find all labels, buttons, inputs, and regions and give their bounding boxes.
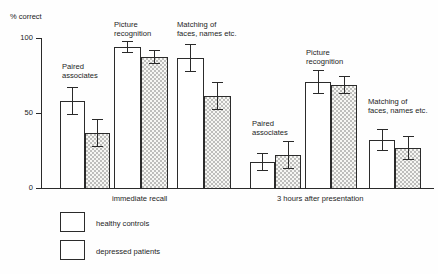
group-label-2-line2: recognition [114,29,151,38]
errorbar-cap-top-patients-5 [339,76,350,77]
errorbar-cap-top-controls-4 [257,153,268,154]
group-label-3-line1: Matching of [177,20,216,29]
group-label-6-line2: faces, names etc. [368,106,428,115]
legend-swatch-depressed-patients [60,240,85,260]
errorbar-cap-bottom-patients-5 [339,93,350,94]
errorbar-cap-bottom-patients-2 [149,63,160,64]
group-label-6: Matching of faces, names etc. [368,97,428,116]
errorbar-cap-top-controls-5 [313,70,324,71]
section-label-immediate: immediate recall [112,194,167,203]
legend-label-depressed-patients: depressed patients [96,247,160,256]
y-tick-100 [36,38,41,39]
bar-patients-2 [141,57,168,189]
errorbar-patients-5 [344,76,345,94]
errorbar-cap-top-patients-1 [92,119,103,120]
errorbar-cap-bottom-patients-4 [283,168,294,169]
group-label-1-line2: associates [62,71,98,80]
errorbar-cap-bottom-patients-1 [92,146,103,147]
errorbar-patients-3 [217,82,218,110]
errorbar-cap-bottom-controls-4 [257,170,268,171]
errorbar-cap-top-patients-4 [283,141,294,142]
errorbar-cap-bottom-patients-3 [212,109,223,110]
y-tick-label-100: 100 [8,33,33,42]
section-label-delayed: 3 hours after presentation [277,194,364,203]
group-label-2-line1: Picture [114,20,138,29]
errorbar-cap-bottom-controls-3 [185,71,196,72]
group-label-3-line2: faces, names etc. [177,29,237,38]
bar-controls-2 [114,47,141,189]
group-label-1-line1: Paired [62,62,84,71]
group-label-5-line1: Picture [306,48,330,57]
errorbar-cap-top-patients-2 [149,50,160,51]
errorbar-cap-bottom-controls-2 [122,52,133,53]
errorbar-controls-4 [262,153,263,171]
legend-label-healthy-controls: healthy controls [96,219,149,228]
errorbar-patients-6 [408,136,409,160]
group-label-1: Paired associates [62,62,98,81]
group-label-5: Picture recognition [306,48,343,67]
y-tick-label-50: 50 [8,108,33,117]
group-label-6-line1: Matching of [368,97,407,106]
legend-swatch-healthy-controls [60,212,85,232]
errorbar-patients-2 [154,50,155,64]
group-label-5-line2: recognition [306,57,343,66]
bar-controls-3 [177,58,204,189]
bar-chart: % correct 100 50 0 Paired associates Pic… [0,0,438,274]
group-label-4: Paired associates [252,119,288,138]
errorbar-cap-bottom-controls-5 [313,93,324,94]
errorbar-cap-top-controls-2 [122,41,133,42]
bar-patients-5 [331,85,357,189]
bar-controls-5 [305,82,331,189]
errorbar-controls-3 [190,44,191,72]
group-label-4-line1: Paired [252,119,274,128]
errorbar-cap-bottom-controls-6 [377,150,388,151]
group-label-3: Matching of faces, names etc. [177,20,237,39]
errorbar-cap-top-controls-6 [377,129,388,130]
y-axis-title: % correct [10,12,42,21]
group-label-4-line2: associates [252,128,288,137]
y-tick-0 [36,188,41,189]
errorbar-controls-1 [72,87,73,115]
errorbar-cap-top-controls-3 [185,44,196,45]
errorbar-cap-top-patients-6 [403,136,414,137]
errorbar-cap-top-controls-1 [67,87,78,88]
errorbar-controls-5 [318,70,319,94]
y-tick-50 [36,113,41,114]
group-label-2: Picture recognition [114,20,151,39]
y-axis-line [41,38,42,188]
errorbar-patients-4 [288,141,289,169]
errorbar-cap-top-patients-3 [212,82,223,83]
errorbar-patients-1 [97,119,98,147]
y-tick-label-0: 0 [8,183,33,192]
errorbar-cap-bottom-patients-6 [403,159,414,160]
errorbar-cap-bottom-controls-1 [67,114,78,115]
errorbar-controls-6 [382,129,383,151]
